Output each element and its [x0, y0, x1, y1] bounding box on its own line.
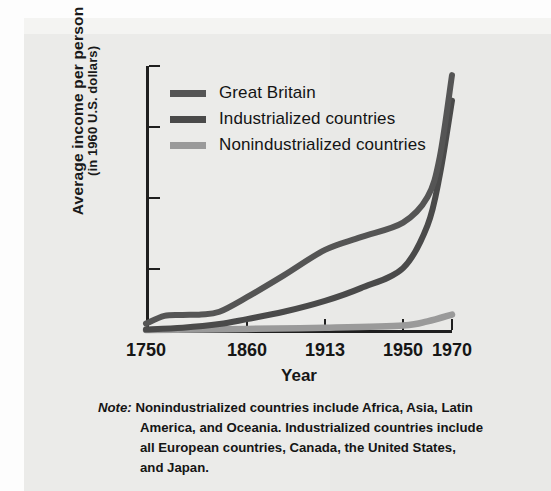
- legend-label-1: Industrialized countries: [219, 109, 395, 129]
- legend-swatch-icon-0: [170, 90, 206, 97]
- figure-page: Average income per person (in 1960 U.S. …: [0, 0, 551, 491]
- legend-swatch-icon-1: [170, 116, 206, 123]
- y-axis-title: Average income per person (in 1960 U.S. …: [69, 0, 101, 261]
- x-tick-label-1750: 1750: [126, 340, 166, 361]
- legend-item-2: Nonindustrialized countries: [170, 132, 426, 158]
- y-axis-title-line2: (in 1960 U.S. dollars): [86, 0, 101, 261]
- x-tick-label-1950: 1950: [383, 340, 423, 361]
- chart-legend: Great BritainIndustrialized countriesNon…: [170, 80, 426, 158]
- x-tick-label-1860: 1860: [227, 340, 267, 361]
- legend-item-1: Industrialized countries: [170, 106, 426, 132]
- legend-item-0: Great Britain: [170, 80, 426, 106]
- note-line-3: all European countries, Canada, the Unit…: [98, 438, 518, 458]
- y-axis-title-line1: Average income per person: [69, 0, 86, 261]
- x-tick-label-1970: 1970: [432, 340, 472, 361]
- legend-label-2: Nonindustrialized countries: [219, 135, 426, 155]
- legend-label-0: Great Britain: [219, 83, 316, 103]
- x-axis-title: Year: [146, 366, 452, 386]
- legend-swatch-icon-2: [170, 142, 206, 149]
- note-line-2: America, and Oceania. Industrialized cou…: [98, 418, 518, 438]
- note-label: Note:: [98, 400, 132, 415]
- figure-note: Note: Nonindustrialized countries includ…: [98, 398, 518, 478]
- x-tick-label-1913: 1913: [305, 340, 345, 361]
- note-line-1: Nonindustrialized countries include Afri…: [135, 400, 473, 415]
- note-line-4: and Japan.: [98, 458, 518, 478]
